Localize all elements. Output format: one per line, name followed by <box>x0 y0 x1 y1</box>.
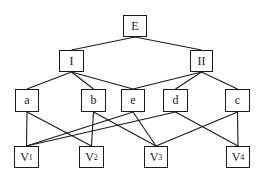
edge-a-V2 <box>27 112 92 146</box>
edge-d-V4 <box>176 112 239 146</box>
edge-b-V2 <box>92 112 94 146</box>
node-label: e <box>130 93 135 108</box>
edge-II-c <box>202 72 238 89</box>
node-label: V <box>20 150 29 165</box>
edge-II-d <box>176 72 202 89</box>
node-a: a <box>15 89 39 112</box>
node-V4: V4 <box>226 146 250 168</box>
node-V2: V2 <box>79 146 104 168</box>
node-label: E <box>131 19 138 34</box>
node-e: e <box>121 89 145 112</box>
edge-E-II <box>135 37 202 50</box>
node-subscript: 4 <box>240 153 244 162</box>
node-label: c <box>235 93 240 108</box>
edge-c-V3 <box>156 112 238 146</box>
node-V3: V3 <box>144 146 168 168</box>
node-label: V <box>85 150 94 165</box>
edge-I-e <box>72 72 134 89</box>
edge-II-e <box>133 72 202 89</box>
node-b: b <box>81 89 106 112</box>
node-label: II <box>198 54 206 69</box>
node-E: E <box>123 15 147 37</box>
node-c: c <box>225 89 250 112</box>
node-label: b <box>91 93 97 108</box>
node-d: d <box>163 89 188 112</box>
edge-E-I <box>72 37 136 50</box>
node-subscript: 2 <box>94 153 98 162</box>
node-label: d <box>173 93 179 108</box>
edge-I-a <box>27 72 72 89</box>
node-subscript: 3 <box>158 153 162 162</box>
edge-e-V1 <box>27 112 134 146</box>
node-I: I <box>59 50 84 72</box>
node-II: II <box>190 50 213 72</box>
node-V1: V1 <box>14 146 39 168</box>
node-label: V <box>150 150 159 165</box>
node-label: I <box>70 54 74 69</box>
node-label: a <box>24 93 29 108</box>
edge-a-V1 <box>27 112 28 146</box>
edge-c-V4 <box>238 112 239 146</box>
node-subscript: 1 <box>29 153 33 162</box>
node-label: V <box>232 150 241 165</box>
